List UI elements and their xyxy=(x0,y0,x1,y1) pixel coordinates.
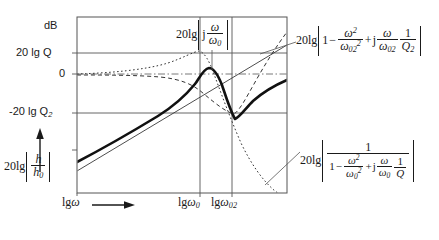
annotation-numerator-quadratic: 20lg1−ω2ω022+jωω021Q2 xyxy=(296,26,422,56)
ytick-label-minus20lgQ2: -20 lg Q2 xyxy=(9,106,52,119)
xtick-label-omega02: lgω02 xyxy=(211,196,237,210)
y-axis-unit-label: dB xyxy=(44,20,57,31)
x-axis-arrow-head xyxy=(124,201,135,209)
annot2-den1-sub: 02 xyxy=(349,46,357,55)
y-axis-denominator: h0 xyxy=(31,166,45,181)
y-axis-expression: 20lghh0 xyxy=(4,152,51,182)
x-axis-label-omega: ω xyxy=(71,195,79,209)
annot2-den2: ω02 xyxy=(377,40,398,55)
annot2-num1-sup: 2 xyxy=(353,26,357,35)
ytick-text-minus20lgQ2: -20 lg Q xyxy=(9,105,48,117)
xtick-sub-0: 0 xyxy=(196,201,200,210)
y-axis-lead: 20lg xyxy=(4,159,25,173)
ytick-label-20lgQ: 20 lg Q xyxy=(16,47,51,58)
annot3-den1-sup: 2 xyxy=(358,166,362,175)
annot1-j: j xyxy=(202,27,205,41)
annot3-fraction-3: 1Q xyxy=(394,156,406,180)
y-axis-numerator: h xyxy=(31,153,45,166)
annot2-fraction-3: 1Q2 xyxy=(400,27,417,55)
annot2-den3: Q2 xyxy=(400,40,417,55)
annot2-num1: ω2 xyxy=(338,27,363,40)
annotation-denominator-quadratic: 20lg11−ω2ω02+jωω01Q xyxy=(300,140,415,182)
xtick-label-omega0: lgω0 xyxy=(178,196,200,210)
ytick-text-20lgQ: 20 lg Q xyxy=(16,46,51,58)
annot3-outer-den: 1−ω2ω02+jωω01Q xyxy=(327,154,409,181)
y-axis-arrow-head xyxy=(36,128,44,139)
annot2-fraction-1: ω2ω022 xyxy=(338,27,363,55)
annot3-abs-bars: 11−ω2ω02+jωω01Q xyxy=(322,140,414,182)
annot1-lead: 20lg xyxy=(176,27,197,41)
y-axis-fraction: hh0 xyxy=(31,153,45,181)
xtick-lg-02: lg xyxy=(211,195,220,209)
x-axis-label: lgω xyxy=(62,196,80,208)
annot2-plus: + xyxy=(364,33,373,47)
annotation-differentiator: 20lgjωω0 xyxy=(176,20,229,50)
annot2-j: j xyxy=(373,33,376,47)
annot2-den1-sup: 2 xyxy=(357,39,361,48)
annot2-num2: ω xyxy=(377,27,398,40)
annot1-den-sub: 0 xyxy=(217,40,221,49)
annot3-j: j xyxy=(373,160,376,172)
annot3-plus: + xyxy=(364,160,372,172)
annot3-outer-num: 1 xyxy=(327,141,409,154)
annot3-lead: 20lg xyxy=(300,153,321,167)
annot3-den1: ω02 xyxy=(344,167,363,180)
annot3-den2-sub: 0 xyxy=(387,171,391,180)
xtick-omega-02: ω xyxy=(220,195,228,209)
xtick-omega-0: ω xyxy=(187,195,195,209)
bode-plot-figure: dB 20 lg Q 0 -20 lg Q2 lgω lgω0 lgω02 20… xyxy=(0,0,439,240)
ytick-sub-minus20lgQ2: 2 xyxy=(48,110,52,119)
xtick-sub-02: 02 xyxy=(229,201,237,210)
annot2-minus: − xyxy=(328,33,337,47)
annot1-den: ω0 xyxy=(207,34,224,49)
annot3-minus: − xyxy=(335,160,343,172)
annot3-fraction-1: ω2ω02 xyxy=(344,154,363,181)
annot2-den2-sub: 02 xyxy=(387,46,395,55)
ytick-label-zero: 0 xyxy=(59,68,65,79)
y-axis-denominator-sub: 0 xyxy=(39,172,43,181)
annot1-abs-bars: jωω0 xyxy=(198,20,228,50)
xtick-lg-0: lg xyxy=(178,195,187,209)
y-axis-abs-bars: hh0 xyxy=(26,152,50,182)
annot2-den1: ω022 xyxy=(338,40,363,55)
annot3-den2: ω0 xyxy=(377,167,393,180)
annot2-lead: 20lg xyxy=(296,33,317,47)
annot3-outer-fraction: 11−ω2ω02+jωω01Q xyxy=(327,141,409,181)
annot2-fraction-2: ωω02 xyxy=(377,27,398,55)
annot2-den3-sub: 2 xyxy=(410,46,414,55)
annot1-num: ω xyxy=(207,21,224,34)
annot3-num1-sup: 2 xyxy=(356,153,360,162)
annot1-fraction: ωω0 xyxy=(207,21,224,49)
annot3-den3: Q xyxy=(394,168,406,179)
annot2-abs-bars: 1−ω2ω022+jωω021Q2 xyxy=(318,26,421,56)
annot3-fraction-2: ωω0 xyxy=(377,155,393,180)
x-axis-label-lg: lg xyxy=(62,195,71,209)
annot2-num3: 1 xyxy=(400,27,417,40)
